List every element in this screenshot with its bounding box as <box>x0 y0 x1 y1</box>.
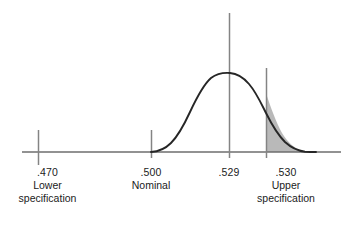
axis-label-lower-specification: .470 Lower specification <box>0 166 95 205</box>
spec-name-upper-line2: specification <box>228 192 344 205</box>
axis-label-upper-specification: .530 Upper specification <box>228 166 344 205</box>
tick-label-nominal: .500 <box>108 166 194 179</box>
tick-label-upper-specification: .530 <box>228 166 344 179</box>
normal-distribution-curve <box>151 73 316 152</box>
spec-name-nominal: Nominal <box>108 179 194 192</box>
axis-label-nominal: .500 Nominal <box>108 166 194 192</box>
spec-name-lower-line2: specification <box>0 192 95 205</box>
out-of-spec-shaded-region <box>266 93 312 152</box>
spec-name-lower-line1: Lower <box>0 179 95 192</box>
spec-name-upper-line1: Upper <box>228 179 344 192</box>
tick-label-lower-specification: .470 <box>0 166 95 179</box>
process-capability-chart: .470 Lower specification .500 Nominal .5… <box>0 0 350 240</box>
